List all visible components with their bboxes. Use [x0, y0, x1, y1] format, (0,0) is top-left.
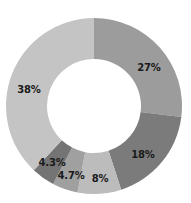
slice-label-18: 18%: [131, 149, 154, 160]
slice-label-27: 27%: [137, 62, 160, 73]
slice-label-38: 38%: [17, 84, 40, 95]
donut-slices: [6, 18, 182, 194]
slice-label-8: 8%: [92, 173, 109, 184]
slice-label-4-7: 4.7%: [58, 170, 85, 181]
slice-label-4-3: 4.3%: [39, 157, 66, 168]
